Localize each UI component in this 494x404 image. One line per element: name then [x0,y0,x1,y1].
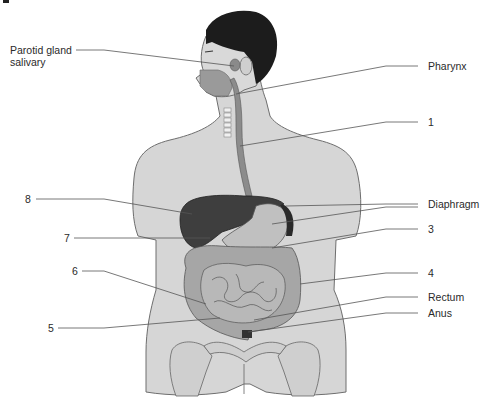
label-pharynx: Pharynx [428,60,467,72]
corner-fragment [3,0,9,3]
label-rectum: Rectum [428,291,464,303]
label-anus: Anus [428,307,452,319]
label-4: 4 [428,267,434,279]
ear [240,57,252,75]
small-intestine [201,263,285,323]
label-parotid-line1: Parotid gland [10,44,72,56]
label-6: 6 [72,265,78,277]
digestive-system-diagram [0,0,494,404]
label-8: 8 [25,193,31,205]
parotid-gland [230,59,240,71]
rectum [242,330,252,338]
label-7: 7 [64,232,70,244]
label-parotid-line2: salivary [10,56,72,68]
label-5: 5 [48,322,54,334]
label-1: 1 [428,116,434,128]
label-parotid-gland: Parotid gland salivary [10,44,72,68]
label-diaphragm: Diaphragm [428,198,479,210]
label-3: 3 [428,223,434,235]
